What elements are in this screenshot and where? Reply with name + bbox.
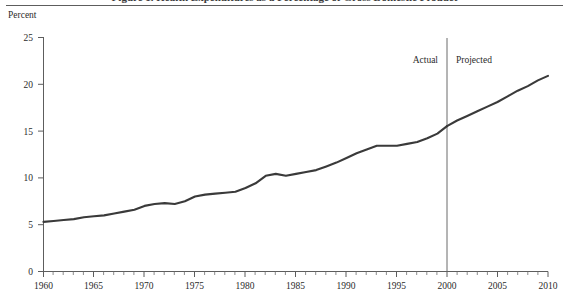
data-line-actual [44,126,448,222]
x-tick-label-2005: 2005 [488,281,507,291]
x-tick-label-1985: 1985 [286,281,305,291]
line-chart: 25 20 15 10 5 0 [0,0,569,308]
data-line-projected [447,76,548,126]
y-tick-marks [38,38,43,272]
x-tick-label-2010: 2010 [539,281,558,291]
x-tick-label-1970: 1970 [135,281,154,291]
x-tick-label-1995: 1995 [387,281,406,291]
y-tick-label-25: 25 [24,33,34,43]
projected-label: Projected [456,55,492,65]
y-tick-label-0: 0 [28,267,33,277]
y-tick-label-10: 10 [24,173,34,183]
y-tick-label-15: 15 [24,127,34,137]
x-tick-label-1990: 1990 [337,281,356,291]
y-tick-label-5: 5 [28,220,33,230]
x-tick-label-2000: 2000 [438,281,457,291]
y-tick-label-20: 20 [24,80,34,90]
x-tick-label-1975: 1975 [185,281,204,291]
x-major-ticks [44,272,549,278]
actual-label: Actual [413,55,439,65]
x-tick-label-1965: 1965 [84,281,103,291]
x-tick-label-1960: 1960 [34,281,53,291]
figure-container: Figure 1. Health Expenditures as a Perce… [0,0,569,308]
x-tick-label-1980: 1980 [236,281,255,291]
